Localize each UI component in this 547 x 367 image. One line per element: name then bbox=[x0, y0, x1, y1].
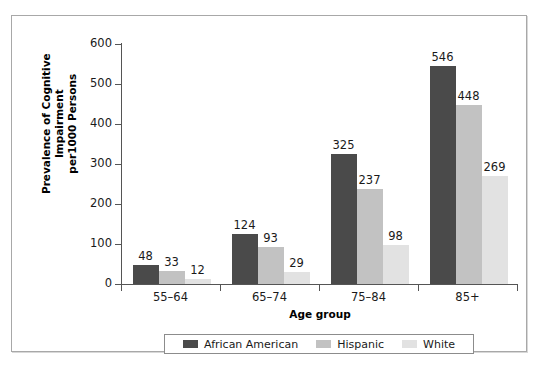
bar-value-white-55-64: 12 bbox=[178, 265, 218, 277]
plot-area: 483312124932932523798546448269 bbox=[122, 44, 517, 284]
x-tick-sep-1 bbox=[220, 285, 221, 291]
legend-entry-african-american: African American bbox=[183, 339, 298, 350]
legend-entry-hispanic: Hispanic bbox=[316, 339, 384, 350]
y-tick-200 bbox=[115, 204, 121, 205]
x-tick-left-edge bbox=[121, 285, 122, 291]
x-axis-title: Age group bbox=[122, 308, 518, 320]
bar-value-hispanic-75-84: 237 bbox=[350, 175, 390, 187]
legend-label-hispanic: Hispanic bbox=[337, 339, 384, 350]
legend-swatch-white bbox=[402, 340, 417, 348]
bar-white-65-74 bbox=[284, 272, 310, 284]
y-tick-label-100: 100 bbox=[72, 238, 112, 250]
x-tick-sep-2 bbox=[319, 285, 320, 291]
bar-value-african-american-75-84: 325 bbox=[324, 140, 364, 152]
x-tick-label-85plus: 85+ bbox=[418, 292, 517, 304]
legend-swatch-hispanic bbox=[316, 340, 331, 348]
bar-value-african-american-85: 546 bbox=[423, 52, 463, 64]
bar-value-white-75-84: 98 bbox=[376, 231, 416, 243]
y-tick-label-0: 0 bbox=[72, 278, 112, 290]
x-tick-right-edge bbox=[517, 285, 518, 291]
legend-swatch-african-american bbox=[183, 340, 198, 348]
bar-value-white-65-74: 29 bbox=[277, 258, 317, 270]
bar-white-55-64 bbox=[185, 279, 211, 284]
bar-value-african-american-65-74: 124 bbox=[225, 220, 265, 232]
bar-white-75-84 bbox=[383, 245, 409, 284]
bar-value-hispanic-65-74: 93 bbox=[251, 233, 291, 245]
bar-african-american-75-84 bbox=[331, 154, 357, 284]
bar-white-85 bbox=[482, 176, 508, 284]
x-tick-label-55-64: 55–64 bbox=[121, 292, 220, 304]
y-tick-300 bbox=[115, 164, 121, 165]
legend-label-white: White bbox=[423, 339, 455, 350]
chart-panel: 600 500 400 300 200 100 0 Prevalence of … bbox=[11, 15, 527, 352]
legend-label-african-american: African American bbox=[204, 339, 298, 350]
x-tick-sep-3 bbox=[418, 285, 419, 291]
y-tick-500 bbox=[115, 84, 121, 85]
chart-legend: African American Hispanic White bbox=[164, 334, 474, 354]
y-axis-title-line2: per1000 Persons bbox=[67, 74, 79, 174]
y-axis-title-line1: Prevalence of Cognitive Impairment bbox=[40, 53, 65, 194]
bar-value-hispanic-85: 448 bbox=[449, 91, 489, 103]
y-tick-400 bbox=[115, 124, 121, 125]
bar-value-white-85: 269 bbox=[475, 162, 515, 174]
x-tick-label-65-74: 65–74 bbox=[220, 292, 319, 304]
y-tick-600 bbox=[115, 44, 121, 45]
x-tick-label-75-84: 75–84 bbox=[319, 292, 418, 304]
y-tick-100 bbox=[115, 244, 121, 245]
legend-entry-white: White bbox=[402, 339, 455, 350]
chart-figure: 600 500 400 300 200 100 0 Prevalence of … bbox=[0, 0, 547, 367]
y-axis-title: Prevalence of Cognitive Impairment per10… bbox=[40, 29, 79, 219]
bar-hispanic-85 bbox=[456, 105, 482, 284]
